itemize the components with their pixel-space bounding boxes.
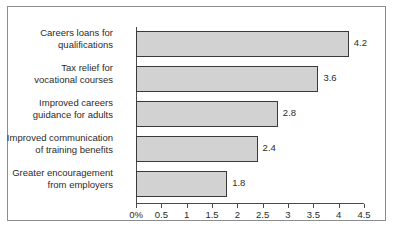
bar-row: Tax relief for vocational courses3.6 (8, 62, 385, 97)
x-axis-tick (288, 204, 289, 208)
x-axis-tick (313, 204, 314, 208)
x-axis-tick-label: 1 (184, 209, 189, 220)
bar-value-label: 3.6 (323, 72, 336, 83)
bar-value-label: 1.8 (232, 177, 245, 188)
x-axis-tick (136, 204, 137, 208)
x-axis-tick (237, 204, 238, 208)
x-axis-tick-label: 3 (285, 209, 290, 220)
x-axis-tick (161, 204, 162, 208)
category-label: Greater encouragement from employers (0, 167, 113, 190)
x-axis-tick (187, 204, 188, 208)
bar-value-label: 2.4 (263, 142, 276, 153)
bar-row: Careers loans for qualifications4.2 (8, 27, 385, 62)
x-axis-line (136, 203, 364, 204)
x-axis-tick-label: 2 (235, 209, 240, 220)
category-label: Tax relief for vocational courses (0, 62, 113, 85)
x-axis-tick-label: 0.5 (155, 209, 168, 220)
x-axis-tick-label: 1.5 (205, 209, 218, 220)
x-axis-tick-label: 3.5 (307, 209, 320, 220)
bar-track: 2.4 (136, 132, 364, 167)
x-axis-tick-label: 2.5 (256, 209, 269, 220)
bar-track: 2.8 (136, 97, 364, 132)
bar-value-label: 2.8 (283, 107, 296, 118)
bar-row: Improved communication of training benef… (8, 132, 385, 167)
chart-frame: Careers loans for qualifications4.2Tax r… (7, 6, 386, 221)
category-label: Improved careers guidance for adults (0, 97, 113, 120)
bar (136, 136, 258, 162)
x-axis-tick (339, 204, 340, 208)
x-axis-tick-label: 4.5 (357, 209, 370, 220)
x-axis-tick (263, 204, 264, 208)
bar-value-label: 4.2 (354, 37, 367, 48)
bar (136, 31, 349, 57)
x-axis-tick-label: 4 (336, 209, 341, 220)
bar (136, 101, 278, 127)
chart-figure: Careers loans for qualifications4.2Tax r… (0, 0, 394, 242)
bar-row: Improved careers guidance for adults2.8 (8, 97, 385, 132)
bar-row: Greater encouragement from employers1.8 (8, 167, 385, 202)
x-axis-tick-label: 0% (129, 209, 143, 220)
bar-track: 4.2 (136, 27, 364, 62)
category-label: Careers loans for qualifications (0, 27, 113, 50)
bar-track: 1.8 (136, 167, 364, 202)
bar-track: 3.6 (136, 62, 364, 97)
bar (136, 171, 227, 197)
bar (136, 66, 318, 92)
x-axis-tick (212, 204, 213, 208)
x-axis-tick (364, 204, 365, 208)
category-label: Improved communication of training benef… (0, 132, 113, 155)
